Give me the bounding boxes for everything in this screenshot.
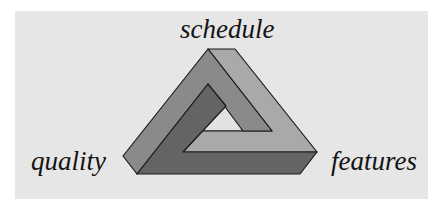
label-schedule: schedule — [180, 16, 274, 43]
label-features: features — [331, 148, 417, 175]
label-quality: quality — [31, 148, 106, 175]
